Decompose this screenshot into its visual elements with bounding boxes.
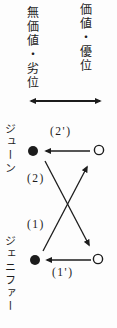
diagram-graphics [0, 0, 117, 328]
june-open-circle-node [94, 145, 103, 154]
diagonal-arrow-2 [45, 161, 89, 245]
june-filled-circle-node [28, 146, 38, 156]
jennifer-filled-circle-node [30, 255, 40, 265]
diagonal-arrow-1 [43, 167, 87, 251]
jennifer-open-circle-node [93, 254, 102, 263]
diagram-canvas: 無価値・劣位 価値・優位 ジューン ジェニファー (2') (2) (1) (1… [0, 0, 117, 328]
